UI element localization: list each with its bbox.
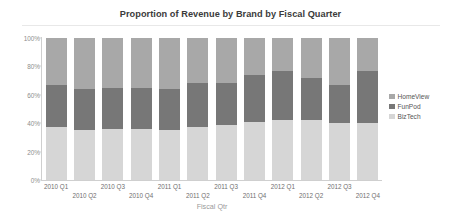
legend-item[interactable]: BizTech [389, 112, 429, 121]
bar-segment-homeview[interactable] [159, 38, 180, 89]
bar-segment-homeview[interactable] [74, 38, 95, 89]
legend-label: HomeView [398, 93, 430, 100]
x-axis-tick-label: 2011 Q2 [186, 192, 210, 199]
bar-segment-funpod[interactable] [329, 85, 350, 123]
legend-label: BizTech [398, 113, 421, 120]
bar-column[interactable] [187, 38, 208, 180]
bar-column[interactable] [244, 38, 265, 180]
legend-item[interactable]: FunPod [389, 102, 429, 111]
x-axis-tick-label: 2010 Q1 [44, 183, 68, 190]
y-axis-tick-mark [38, 94, 41, 95]
bar-column[interactable] [46, 38, 67, 180]
bar-segment-homeview[interactable] [46, 38, 67, 85]
bar-segment-biztech[interactable] [329, 123, 350, 180]
y-axis-tick-label: 80% [4, 63, 40, 70]
chart-container: Proportion of Revenue by Brand by Fiscal… [0, 0, 461, 224]
legend-item[interactable]: HomeView [389, 92, 429, 101]
x-axis-title: Fiscal Qtr [42, 202, 382, 211]
bar-segment-homeview[interactable] [102, 38, 123, 88]
bar-segment-funpod[interactable] [74, 89, 95, 130]
bar-segment-biztech[interactable] [159, 130, 180, 180]
bar-segment-funpod[interactable] [102, 88, 123, 129]
bar-segment-biztech[interactable] [74, 130, 95, 180]
y-axis-tick-label: 60% [4, 91, 40, 98]
bar-segment-funpod[interactable] [301, 78, 322, 121]
bar-segment-biztech[interactable] [216, 125, 237, 180]
bar-segment-biztech[interactable] [131, 129, 152, 180]
bar-column[interactable] [329, 38, 350, 180]
y-axis-tick-mark [38, 123, 41, 124]
y-axis-tick-mark [38, 180, 41, 181]
legend-swatch-icon [389, 94, 395, 100]
x-axis-tick-label: 2012 Q2 [299, 192, 323, 199]
bar-segment-funpod[interactable] [357, 71, 378, 124]
y-axis-ticks: 0%20%40%60%80%100% [0, 0, 40, 224]
bar-segment-homeview[interactable] [187, 38, 208, 83]
bar-segment-biztech[interactable] [244, 122, 265, 180]
y-axis-tick-mark [38, 66, 41, 67]
y-axis-tick-label: 40% [4, 120, 40, 127]
bar-column[interactable] [102, 38, 123, 180]
x-axis-tick-label: 2011 Q4 [243, 192, 267, 199]
bar-segment-biztech[interactable] [272, 120, 293, 180]
bar-column[interactable] [131, 38, 152, 180]
x-axis-tick-label: 2011 Q3 [214, 183, 238, 190]
y-axis-tick-mark [38, 151, 41, 152]
bar-column[interactable] [301, 38, 322, 180]
chart-title: Proportion of Revenue by Brand by Fiscal… [0, 9, 461, 19]
bar-column[interactable] [74, 38, 95, 180]
x-axis-tick-label: 2012 Q3 [327, 183, 351, 190]
bar-segment-homeview[interactable] [357, 38, 378, 71]
bar-segment-biztech[interactable] [46, 127, 67, 180]
bar-segment-biztech[interactable] [301, 120, 322, 180]
bar-column[interactable] [357, 38, 378, 180]
bar-segment-biztech[interactable] [187, 127, 208, 180]
legend-swatch-icon [389, 114, 395, 120]
bar-column[interactable] [159, 38, 180, 180]
bar-column[interactable] [216, 38, 237, 180]
bar-segment-homeview[interactable] [131, 38, 152, 88]
x-axis-tick-label: 2010 Q4 [129, 192, 153, 199]
x-axis-tick-label: 2012 Q1 [271, 183, 295, 190]
bar-segment-funpod[interactable] [131, 88, 152, 129]
title-divider [22, 25, 440, 26]
bar-column[interactable] [272, 38, 293, 180]
y-axis-tick-label: 100% [4, 35, 40, 42]
x-axis-tick-label: 2010 Q3 [101, 183, 125, 190]
x-axis-tick-label: 2012 Q4 [356, 192, 380, 199]
legend-label: FunPod [398, 103, 421, 110]
y-axis-tick-label: 20% [4, 148, 40, 155]
bar-segment-funpod[interactable] [272, 71, 293, 121]
bar-segment-homeview[interactable] [301, 38, 322, 78]
bar-segment-homeview[interactable] [329, 38, 350, 85]
bar-segment-biztech[interactable] [357, 123, 378, 180]
legend-swatch-icon [389, 104, 395, 110]
bar-segment-funpod[interactable] [46, 85, 67, 128]
x-axis-tick-label: 2011 Q1 [158, 183, 182, 190]
bar-segment-homeview[interactable] [244, 38, 265, 75]
bars-layer [42, 38, 382, 180]
bar-segment-funpod[interactable] [187, 83, 208, 127]
y-axis-tick-mark [38, 38, 41, 39]
y-axis-tick-label: 0% [4, 177, 40, 184]
x-axis-tick-label: 2010 Q2 [72, 192, 96, 199]
bar-segment-funpod[interactable] [216, 83, 237, 124]
chart-legend: HomeViewFunPodBizTech [389, 92, 429, 122]
bar-segment-homeview[interactable] [272, 38, 293, 71]
bar-segment-funpod[interactable] [244, 75, 265, 122]
bar-segment-biztech[interactable] [102, 129, 123, 180]
bar-segment-homeview[interactable] [216, 38, 237, 83]
bar-segment-funpod[interactable] [159, 89, 180, 130]
